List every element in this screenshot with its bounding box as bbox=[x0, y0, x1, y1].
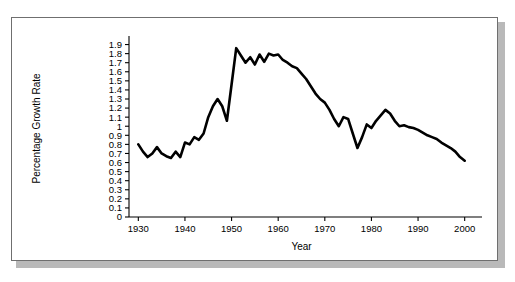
data-series-line bbox=[138, 48, 464, 161]
y-axis-ticks bbox=[125, 45, 129, 217]
y-tick-label: 1.9 bbox=[109, 39, 122, 50]
x-tick-label: 1940 bbox=[174, 223, 195, 234]
x-tick-label: 2000 bbox=[454, 223, 475, 234]
figure-root: 00.10.20.30.40.50.60.70.80.911.11.21.31.… bbox=[0, 0, 515, 282]
x-axis-ticks bbox=[138, 217, 464, 221]
y-axis-title: Percentage Growth Rate bbox=[31, 73, 42, 183]
y-axis-group: 00.10.20.30.40.50.60.70.80.911.11.21.31.… bbox=[109, 36, 129, 222]
x-tick-label: 1970 bbox=[314, 223, 335, 234]
x-axis-tick-labels: 19301940195019601970198019902000 bbox=[128, 223, 475, 234]
x-tick-label: 1950 bbox=[221, 223, 242, 234]
x-tick-label: 1980 bbox=[361, 223, 382, 234]
x-tick-label: 1990 bbox=[407, 223, 428, 234]
y-axis-tick-labels: 00.10.20.30.40.50.60.70.80.911.11.21.31.… bbox=[109, 39, 122, 222]
x-axis-group: 19301940195019601970198019902000 bbox=[128, 217, 482, 234]
x-axis-title: Year bbox=[291, 241, 312, 252]
growth-rate-line-chart: 00.10.20.30.40.50.60.70.80.911.11.21.31.… bbox=[12, 18, 499, 262]
figure-frame: 00.10.20.30.40.50.60.70.80.911.11.21.31.… bbox=[11, 17, 498, 261]
x-tick-label: 1930 bbox=[128, 223, 149, 234]
x-tick-label: 1960 bbox=[268, 223, 289, 234]
chart-plot-area: 00.10.20.30.40.50.60.70.80.911.11.21.31.… bbox=[12, 18, 499, 262]
